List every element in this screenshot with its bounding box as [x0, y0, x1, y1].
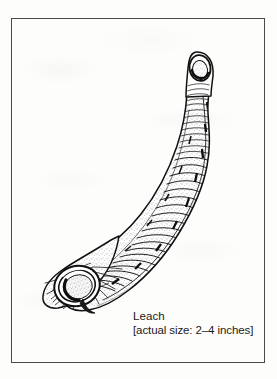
figure-caption: Leach [actual size: 2–4 inches] — [133, 309, 257, 337]
caption-size-note: [actual size: 2–4 inches] — [133, 323, 257, 337]
illustration-page: Leach [actual size: 2–4 inches] — [0, 0, 277, 379]
anterior-sucker — [186, 52, 213, 101]
caption-title: Leach — [133, 309, 257, 323]
